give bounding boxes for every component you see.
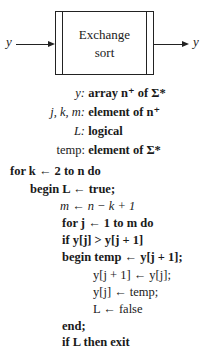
code-line-11: if L then exit bbox=[62, 333, 130, 350]
output-label: y bbox=[193, 34, 199, 50]
box-label-line1: Exchange bbox=[56, 26, 153, 44]
declaration-lhs: temp: bbox=[38, 141, 85, 160]
declaration-lhs: j, k, m: bbox=[38, 103, 85, 122]
exchange-sort-box: Exchange sort bbox=[55, 11, 154, 75]
declaration-row: y: array n⁺ of Σ* bbox=[38, 84, 166, 103]
output-arrowhead-icon bbox=[182, 41, 189, 47]
declaration-rhs: logical bbox=[88, 124, 123, 138]
box-label-line2: sort bbox=[56, 44, 153, 62]
code-line-9: L ← false bbox=[93, 300, 143, 319]
code-line-6: begin temp ← y[j + 1]; bbox=[62, 248, 183, 267]
input-label: y bbox=[6, 34, 12, 50]
declaration-rhs: element of n⁺ bbox=[88, 105, 160, 119]
declaration-lhs: y: bbox=[38, 84, 85, 103]
declaration-row: temp: element of Σ* bbox=[38, 141, 166, 160]
declarations: y: array n⁺ of Σ* j, k, m: element of n⁺… bbox=[38, 84, 166, 160]
declaration-row: j, k, m: element of n⁺ bbox=[38, 103, 166, 122]
output-arrow-line bbox=[154, 44, 184, 45]
declaration-rhs: element of Σ* bbox=[88, 143, 161, 157]
input-arrowhead-icon bbox=[48, 41, 55, 47]
declaration-rhs: array n⁺ of Σ* bbox=[88, 86, 166, 100]
declaration-lhs: L: bbox=[38, 122, 85, 141]
input-arrow-line bbox=[16, 44, 49, 45]
declaration-row: L: logical bbox=[38, 122, 166, 141]
code-line-1: for k ← 2 to n do bbox=[10, 162, 101, 181]
